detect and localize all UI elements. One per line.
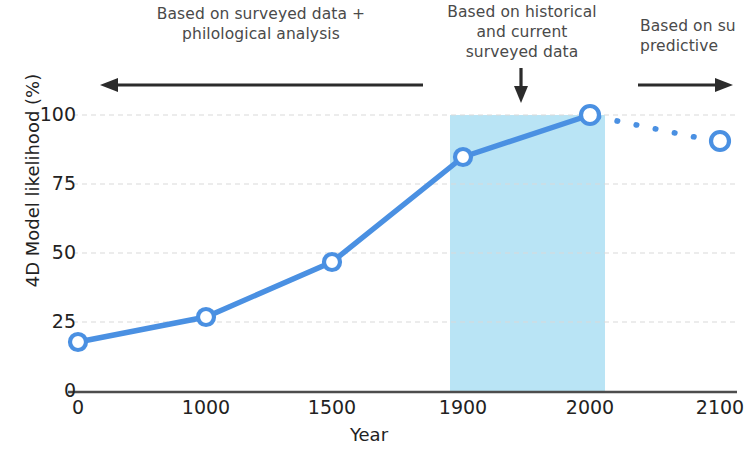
x-tick-label-2000: 2000 xyxy=(550,396,630,418)
data-point-1500 xyxy=(324,254,340,270)
x-tick-label-2100: 2100 xyxy=(680,396,748,418)
y-axis-title: 4D Model likelihood (%) xyxy=(22,56,43,306)
x-tick-label-0: 0 xyxy=(38,396,118,418)
series-line-dotted xyxy=(598,117,714,141)
data-point-2100 xyxy=(711,132,729,150)
data-point-1000 xyxy=(198,309,214,325)
data-point-1900 xyxy=(455,149,471,165)
data-point-2000 xyxy=(581,106,599,124)
data-point-0 xyxy=(70,334,86,350)
x-axis-title: Year xyxy=(289,424,449,445)
gridlines xyxy=(73,115,737,322)
x-tick-label-1900: 1900 xyxy=(423,396,503,418)
x-tick-label-1000: 1000 xyxy=(166,396,246,418)
series-markers xyxy=(70,106,729,350)
series-line-solid xyxy=(78,115,590,342)
y-tick-label-25: 25 xyxy=(30,310,76,332)
x-tick-label-1500: 1500 xyxy=(292,396,372,418)
